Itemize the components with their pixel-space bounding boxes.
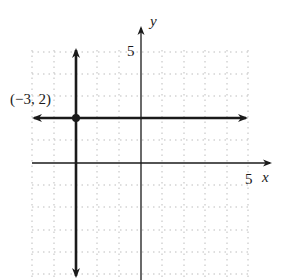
axes [32,28,270,280]
point-label: (−3, 2) [10,92,51,107]
point-marker [72,114,80,122]
y-axis-label: y [150,14,157,29]
x-axis-label: x [262,170,269,185]
y-tick-label: 5 [127,44,135,59]
coordinate-plane [0,0,282,280]
x-tick-label: 5 [245,172,253,187]
graph-figure: (−3, 2) 5 y 5 x [0,0,282,280]
